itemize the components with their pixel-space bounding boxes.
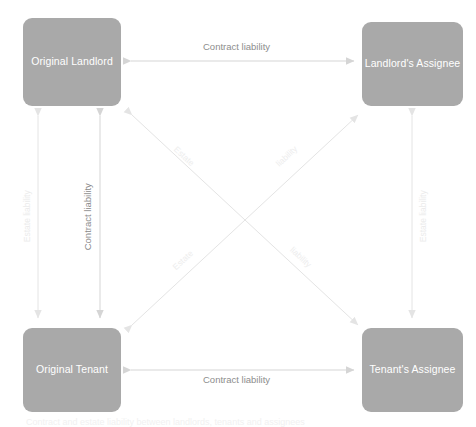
- edge-label-left-outer-vertical: Estate liability: [23, 181, 32, 251]
- node-original-tenant[interactable]: Original Tenant: [23, 328, 121, 412]
- node-original-tenant-label: Original Tenant: [36, 364, 108, 376]
- node-tenants-assignee-label: Tenant's Assignee: [369, 364, 455, 376]
- node-original-landlord-label: Original Landlord: [31, 56, 113, 68]
- edge-label-top-horizontal: Contract liability: [203, 42, 270, 52]
- diagram-caption: Contract and estate liability between la…: [26, 417, 305, 427]
- edge-label-right-vertical: Estate liability: [419, 181, 428, 251]
- node-tenants-assignee[interactable]: Tenant's Assignee: [362, 328, 463, 412]
- edge-label-bottom-horizontal: Contract liability: [203, 375, 270, 385]
- node-landlords-assignee[interactable]: Landlord's Assignee: [362, 22, 463, 106]
- node-original-landlord[interactable]: Original Landlord: [23, 18, 121, 106]
- edge-label-left-inner-vertical: Contract liability: [83, 175, 93, 259]
- node-landlords-assignee-label: Landlord's Assignee: [365, 58, 461, 70]
